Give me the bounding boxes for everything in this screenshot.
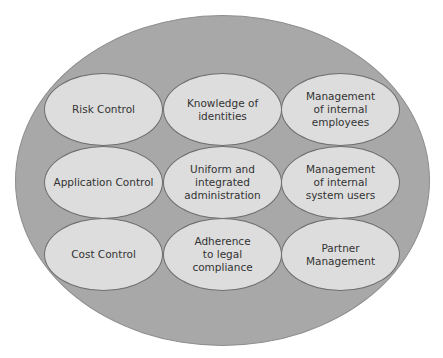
label-knowledge-of-identities: Knowledge of identities <box>187 97 258 123</box>
label-risk-control: Risk Control <box>72 103 135 116</box>
label-management-internal-system-users: Management of internal system users <box>306 163 376 202</box>
ellipse-management-internal-employees: Management of internal employees <box>281 73 400 146</box>
ellipse-cost-control: Cost Control <box>44 218 163 291</box>
ellipse-knowledge-of-identities: Knowledge of identities <box>163 73 282 146</box>
ellipse-application-control: Application Control <box>44 146 163 219</box>
label-application-control: Application Control <box>54 176 154 189</box>
label-cost-control: Cost Control <box>71 248 136 261</box>
label-partner-management: Partner Management <box>306 242 375 268</box>
ellipse-uniform-integrated-administration: Uniform and integrated administration <box>163 146 282 219</box>
ellipse-risk-control: Risk Control <box>44 73 163 146</box>
ellipse-management-internal-system-users: Management of internal system users <box>281 146 400 219</box>
label-management-internal-employees: Management of internal employees <box>306 90 375 129</box>
ellipse-legal-compliance: Adherence to legal compliance <box>163 218 282 291</box>
label-uniform-integrated-administration: Uniform and integrated administration <box>184 163 260 202</box>
ellipse-partner-management: Partner Management <box>281 218 400 291</box>
label-legal-compliance: Adherence to legal compliance <box>192 235 252 274</box>
